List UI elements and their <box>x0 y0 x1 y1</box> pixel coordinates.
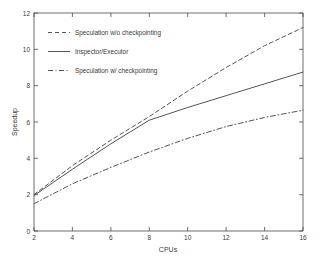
axis-frame-path <box>34 13 303 231</box>
series-line-inspector-executor <box>34 72 303 196</box>
y-tick-label-8: 8 <box>26 82 30 89</box>
y-tick-label-12: 12 <box>23 10 31 17</box>
x-tick-label-8: 8 <box>147 234 151 241</box>
legend-label-0: Speculation w/o checkpointing <box>75 29 161 37</box>
x-axis-title: CPUs <box>159 246 178 253</box>
x-tick-label-2: 2 <box>32 234 36 241</box>
legend-label-1: Inspector/Executor <box>75 48 129 56</box>
x-tick-label-6: 6 <box>109 234 113 241</box>
x-tick-label-4: 4 <box>71 234 75 241</box>
x-tick-label-12: 12 <box>222 234 230 241</box>
x-tick-label-10: 10 <box>184 234 192 241</box>
y-tick-label-2: 2 <box>26 191 30 198</box>
y-tick-label-6: 6 <box>26 119 30 126</box>
y-tick-label-0: 0 <box>26 228 30 235</box>
legend: Speculation w/o checkpointing Inspector/… <box>48 29 161 75</box>
x-tick-label-14: 14 <box>261 234 269 241</box>
speedup-line-chart: 0 2 4 6 8 10 12 <box>0 0 321 263</box>
y-tick-label-10: 10 <box>23 46 31 53</box>
axes-frame <box>34 13 303 231</box>
y-tick-label-4: 4 <box>26 155 30 162</box>
x-tick-label-16: 16 <box>299 234 307 241</box>
y-axis-ticks <box>34 13 303 231</box>
x-axis-ticks <box>34 13 303 231</box>
chart-figure: 0 2 4 6 8 10 12 <box>0 0 321 263</box>
series-line-speculation-w-checkpointing <box>34 110 303 204</box>
legend-label-2: Speculation w/ checkpointing <box>75 67 158 75</box>
y-axis-tick-labels: 0 2 4 6 8 10 12 <box>23 10 31 235</box>
x-axis-tick-labels: 2 4 6 8 10 12 14 16 <box>32 234 307 241</box>
y-axis-title: Speedup <box>11 108 19 136</box>
